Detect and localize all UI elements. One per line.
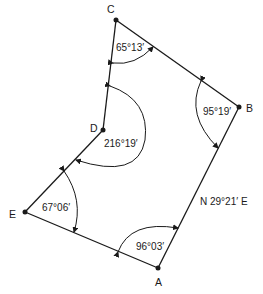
angle-label-C: 65°13′ (116, 42, 144, 53)
angle-arcs (64, 47, 218, 252)
vertex-A-dot (156, 266, 161, 271)
angle-label-E: 67°06′ (42, 202, 70, 213)
angle-label-D: 216°19′ (104, 138, 138, 149)
side-AB (158, 107, 239, 268)
vertex-D-dot (101, 128, 106, 133)
side-EA (25, 212, 158, 268)
vertex-E-dot (23, 210, 28, 215)
vertex-label-E: E (9, 208, 16, 220)
vertex-C-dot (114, 18, 119, 23)
vertex-label-C: C (107, 3, 115, 15)
vertex-B-dot (237, 105, 242, 110)
angle-label-A: 96°03′ (136, 241, 164, 252)
side-CD (103, 20, 116, 130)
side-BC (116, 20, 239, 107)
vertex-label-B: B (246, 102, 253, 114)
bearing-label-AB: N 29°21′ E (200, 196, 248, 207)
vertex-label-D: D (90, 122, 98, 134)
traverse-diagram: A B C D E 96°03′ 95°19′ 65°13′ 216°19′ 6… (0, 0, 263, 294)
angle-label-B: 95°19′ (203, 106, 231, 117)
angle-arc-D (76, 86, 146, 167)
vertex-label-A: A (155, 276, 162, 288)
